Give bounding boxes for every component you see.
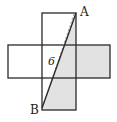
shaded-region-right-arm: [76, 45, 110, 78]
label-B: B: [30, 103, 39, 117]
label-length-6: 6: [48, 55, 55, 68]
label-A: A: [79, 5, 89, 19]
cross-net-diagram: A B 6: [0, 0, 117, 122]
